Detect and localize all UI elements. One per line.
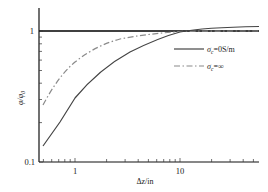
- legend-label-sigma-0: σc=0S/m: [207, 45, 236, 55]
- y-tick-label-1: 1: [30, 26, 34, 36]
- y-axis-title-main: φ/φ: [16, 93, 25, 105]
- x-tick-label-1: 1: [73, 166, 77, 176]
- y-axis-title: φ/φ0: [16, 91, 26, 105]
- legend: σc=0S/m σc=∞: [174, 45, 236, 72]
- legend-label-sigma-inf: σc=∞: [207, 62, 224, 72]
- line-chart: 1 0.1 1 10 Δz/in φ/φ0 σc=0S/m σc=∞: [0, 0, 268, 192]
- y-tick-label-0-1: 0.1: [24, 157, 35, 167]
- x-axis-title: Δz/in: [136, 177, 153, 186]
- svg-text:φ/φ0: φ/φ0: [16, 91, 26, 105]
- x-tick-label-10: 10: [176, 166, 185, 176]
- y-axis-title-sub: 0: [20, 91, 26, 94]
